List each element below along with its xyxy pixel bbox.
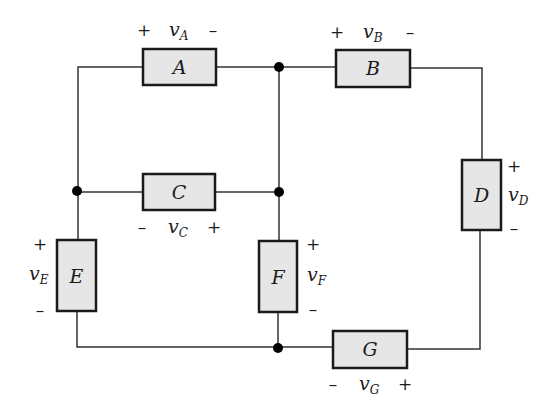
wire-left-top bbox=[78, 67, 143, 240]
element-e-minus: – bbox=[36, 300, 45, 320]
element-c-voltage: vC bbox=[168, 215, 188, 240]
element-a: A + – vA bbox=[137, 18, 217, 85]
element-f-plus: + bbox=[306, 234, 320, 254]
element-g: G – + vG bbox=[329, 331, 412, 397]
element-f-label: F bbox=[270, 266, 285, 288]
element-a-voltage: vA bbox=[169, 18, 189, 43]
element-d-minus: – bbox=[510, 218, 519, 238]
element-f-minus: – bbox=[309, 299, 318, 319]
element-f-voltage: vF bbox=[307, 263, 327, 288]
element-g-minus: – bbox=[329, 374, 338, 394]
element-f: F + – vF bbox=[259, 234, 327, 319]
node-center bbox=[274, 187, 284, 197]
element-a-plus: + bbox=[137, 20, 151, 40]
element-b: B + – vB bbox=[330, 20, 414, 87]
element-e-voltage: vE bbox=[29, 262, 49, 287]
element-b-plus: + bbox=[330, 22, 344, 42]
element-d: D + – vD bbox=[462, 156, 529, 238]
circuit-diagram: A + – vA B + – vB C – + vC D + – vD E + … bbox=[0, 0, 554, 415]
circuit-svg: A + – vA B + – vB C – + vC D + – vD E + … bbox=[0, 0, 554, 415]
element-e-label: E bbox=[69, 265, 84, 287]
node-bottom-middle bbox=[273, 343, 283, 353]
element-a-minus: – bbox=[209, 20, 218, 40]
element-c-plus: + bbox=[207, 217, 221, 237]
element-b-voltage: vB bbox=[363, 20, 383, 45]
element-d-voltage: vD bbox=[508, 183, 529, 208]
element-g-label: G bbox=[362, 338, 377, 360]
element-a-label: A bbox=[171, 56, 187, 78]
node-top-middle bbox=[274, 62, 284, 72]
element-b-minus: – bbox=[406, 22, 415, 42]
element-c-label: C bbox=[172, 181, 187, 203]
element-e: E + – vE bbox=[29, 234, 96, 320]
element-d-label: D bbox=[473, 184, 489, 206]
element-g-voltage: vG bbox=[359, 372, 380, 397]
element-d-plus: + bbox=[507, 156, 521, 176]
element-c: C – + vC bbox=[138, 174, 221, 240]
wire-e-bottom bbox=[77, 311, 333, 347]
element-g-plus: + bbox=[398, 374, 412, 394]
element-b-label: B bbox=[365, 57, 380, 79]
node-left-middle bbox=[72, 186, 82, 196]
element-e-plus: + bbox=[33, 234, 47, 254]
wire-g-d bbox=[407, 230, 480, 349]
wire-b-d bbox=[410, 68, 482, 160]
element-c-minus: – bbox=[138, 217, 147, 237]
